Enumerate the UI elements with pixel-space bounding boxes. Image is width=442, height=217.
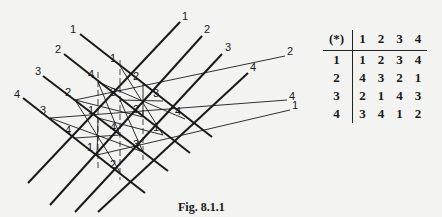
table-cell: 1 bbox=[372, 87, 391, 105]
table-cell: 4 bbox=[353, 69, 372, 87]
row-header: 1 bbox=[323, 51, 353, 70]
transversal-line bbox=[97, 110, 290, 155]
down-line-label: 2 bbox=[55, 43, 61, 55]
up-line bbox=[28, 22, 180, 183]
intersection-label: 2 bbox=[65, 86, 71, 98]
table-row: 2 4 3 2 1 bbox=[323, 69, 427, 87]
intersection-label: 4 bbox=[88, 68, 94, 80]
down-line bbox=[43, 76, 168, 171]
table-cell: 1 bbox=[409, 69, 428, 87]
table-cell: 1 bbox=[390, 105, 409, 123]
intersection-label: 1 bbox=[153, 121, 159, 133]
column-header: 2 bbox=[372, 30, 391, 51]
table-corner: (*) bbox=[323, 30, 353, 51]
transversal-label: 2 bbox=[287, 45, 293, 57]
up-line-label: 4 bbox=[250, 61, 256, 73]
intersection-label: 3 bbox=[153, 87, 159, 99]
up-line bbox=[75, 54, 222, 212]
intersection-label: 1 bbox=[87, 141, 93, 153]
intersection-label: 4 bbox=[175, 105, 181, 117]
transversal-lines bbox=[50, 56, 290, 172]
table-row: 1 1 2 3 4 bbox=[323, 51, 427, 70]
latin-square-table: (*) 1 2 3 4 1 1 2 3 4 2 4 3 2 1 3 2 1 4 … bbox=[323, 30, 427, 123]
column-header: 3 bbox=[390, 30, 409, 51]
table-cell: 3 bbox=[390, 51, 409, 70]
up-line-label: 3 bbox=[225, 41, 231, 53]
table-header-row: (*) 1 2 3 4 bbox=[323, 30, 427, 51]
intersection-label: 2 bbox=[133, 103, 139, 115]
table-cell: 3 bbox=[409, 87, 428, 105]
table-row: 3 2 1 4 3 bbox=[323, 87, 427, 105]
up-line-label: 1 bbox=[182, 10, 188, 22]
table-cell: 2 bbox=[372, 51, 391, 70]
table-cell: 1 bbox=[353, 51, 372, 70]
down-line-label: 1 bbox=[70, 23, 76, 35]
column-header: 4 bbox=[409, 30, 428, 51]
intersection-label: 3 bbox=[133, 138, 139, 150]
table-cell: 2 bbox=[390, 69, 409, 87]
table-cell: 4 bbox=[372, 105, 391, 123]
table-cell: 2 bbox=[353, 87, 372, 105]
intersection-label: 1 bbox=[88, 104, 94, 116]
table-cell: 3 bbox=[372, 69, 391, 87]
row-header: 2 bbox=[323, 69, 353, 87]
intersection-label: 4 bbox=[110, 121, 116, 133]
intersection-label: 3 bbox=[40, 104, 46, 116]
table-cell: 2 bbox=[409, 105, 428, 123]
table-row: 4 3 4 1 2 bbox=[323, 105, 427, 123]
down-line bbox=[64, 54, 190, 153]
figure-caption: Fig. 8.1.1 bbox=[178, 200, 225, 215]
down-line-label: 3 bbox=[35, 65, 41, 77]
column-header: 1 bbox=[353, 30, 372, 51]
intersection-label: 2 bbox=[110, 158, 116, 170]
intersection-label: 4 bbox=[65, 124, 71, 136]
table-cell: 4 bbox=[390, 87, 409, 105]
up-line bbox=[98, 73, 248, 212]
table-cell: 3 bbox=[353, 105, 372, 123]
table-cell: 4 bbox=[409, 51, 428, 70]
intersection-label: 3 bbox=[110, 86, 116, 98]
row-header: 3 bbox=[323, 87, 353, 105]
intersection-label: 2 bbox=[133, 70, 139, 82]
symbol-connector bbox=[50, 118, 143, 152]
row-header: 4 bbox=[323, 105, 353, 123]
up-line-label: 2 bbox=[204, 23, 210, 35]
down-line-label: 4 bbox=[14, 88, 20, 100]
intersection-label: 1 bbox=[110, 52, 116, 64]
transversal-label: 1 bbox=[292, 99, 298, 111]
